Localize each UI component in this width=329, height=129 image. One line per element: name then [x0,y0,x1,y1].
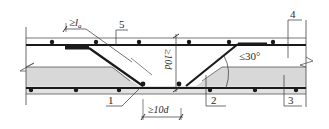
callout-1-label: 1 [108,94,114,106]
leader-line [131,58,152,75]
lower-slab-fill-left [26,67,139,86]
lower-slab-fill-right [196,67,306,86]
rebar-dot [294,88,298,92]
callout-leader [116,30,128,45]
callout-4-label: 4 [290,8,296,20]
rebar-dot [137,40,141,44]
callout-5: 5 [116,18,128,45]
top-lap-bar-left [65,46,89,50]
rebar-dot [141,82,146,87]
callout-leader [288,20,302,58]
top-lap-bar-right [238,43,267,46]
rebar-dot [187,40,191,44]
reinforcement-detail-diagram: ≥la 5 4 ≥10d ≤30° 1 2 3 [0,0,329,129]
horizontal-dimension-label: ≥10d [148,104,169,115]
rebar-dot [208,88,212,92]
callout-4: 4 [288,8,302,58]
vertical-dimension-label: ≥10d [163,49,174,70]
rebar-dot [271,40,275,44]
callout-3-label: 3 [288,94,294,106]
vertical-dimension: ≥10d [163,34,179,92]
callout-5-label: 5 [119,18,125,30]
rebar-dot [74,88,78,92]
horizontal-dimension: ≥10d [141,99,183,120]
rebar-dot [50,40,54,44]
break-mark-right [300,57,313,67]
anchorage-length-label: ≥la [69,16,82,30]
rebar-dot [253,88,257,92]
rebar-dot [177,82,182,87]
callout-2-label: 2 [211,94,217,106]
rebar-dot [29,88,33,92]
rebar-dot [117,88,121,92]
angle-label: ≤30° [239,50,260,62]
rebar-dot [227,40,231,44]
rebar-dot [94,40,98,44]
